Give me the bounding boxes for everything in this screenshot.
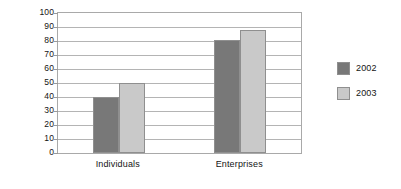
y-tick-label: 100 bbox=[26, 7, 54, 17]
legend-item-2003[interactable]: 2003 bbox=[337, 87, 377, 100]
y-tick-label: 10 bbox=[26, 133, 54, 143]
legend-swatch-icon bbox=[337, 87, 350, 100]
y-tick-mark bbox=[54, 153, 58, 154]
bar-chart-figure: Percentages 0102030405060708090100 Indiv… bbox=[0, 0, 401, 189]
bar-2002-individuals bbox=[93, 97, 119, 153]
y-tick-label: 70 bbox=[26, 49, 54, 59]
y-tick-label: 20 bbox=[26, 119, 54, 129]
legend-item-2002[interactable]: 2002 bbox=[337, 62, 377, 75]
y-tick-label: 40 bbox=[26, 91, 54, 101]
y-tick-label: 50 bbox=[26, 77, 54, 87]
y-tick-label: 90 bbox=[26, 21, 54, 31]
x-tick-label: Enterprises bbox=[179, 158, 299, 171]
x-axis-tick-labels: IndividualsEnterprises bbox=[57, 158, 300, 172]
bar-2003-enterprises bbox=[240, 30, 266, 153]
y-tick-label: 80 bbox=[26, 35, 54, 45]
x-tick-label: Individuals bbox=[58, 158, 178, 171]
bars-layer bbox=[58, 13, 301, 153]
bar-2003-individuals bbox=[119, 83, 145, 153]
bar-2002-enterprises bbox=[214, 40, 240, 153]
legend-swatch-icon bbox=[337, 62, 350, 75]
y-tick-label: 30 bbox=[26, 105, 54, 115]
chart-legend: 20022003 bbox=[337, 62, 397, 106]
y-axis-tick-labels: 0102030405060708090100 bbox=[26, 12, 54, 152]
legend-label: 2002 bbox=[356, 62, 377, 75]
y-tick-label: 0 bbox=[26, 147, 54, 157]
y-tick-label: 60 bbox=[26, 63, 54, 73]
plot-area bbox=[57, 12, 302, 154]
legend-label: 2003 bbox=[356, 87, 377, 100]
